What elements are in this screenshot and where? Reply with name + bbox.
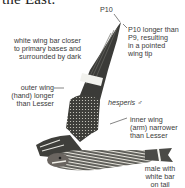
annotation-white-wing-bar: white wing bar closer to primary bases a…	[6, 37, 81, 61]
annotation-male-tail: male with white bar on tail	[138, 165, 182, 188]
annotation-p10-longer: P10 longer than P9, resulting in a point…	[128, 26, 179, 58]
annotation-p10: P10	[100, 6, 113, 14]
male-symbol: ♂	[137, 98, 142, 107]
annotation-outer-wing: outer wing (hand) longer than Lesser	[4, 84, 54, 108]
subspecies-label: hesperis ♂	[108, 99, 143, 107]
field-guide-page: the East.	[0, 0, 185, 188]
annotation-inner-wing: inner wing (arm) narrower than Lesser	[130, 116, 178, 140]
bird-head	[47, 153, 69, 167]
